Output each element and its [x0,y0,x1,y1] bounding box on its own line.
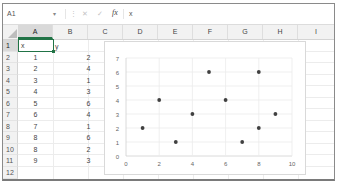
column-header-h[interactable]: H [263,25,298,39]
column-header-a[interactable]: A [18,25,53,39]
data-point [141,126,145,130]
cell-a10[interactable]: 8 [18,144,53,155]
cell-a4[interactable]: 3 [18,75,53,86]
column-headers: A B C D E F G H I [3,25,334,40]
formula-input[interactable]: x [129,8,133,20]
divider [65,9,66,19]
data-point [191,112,195,116]
column-header-f[interactable]: F [193,25,228,39]
cell-a5[interactable]: 4 [18,86,53,98]
cell-b7[interactable]: 4 [71,109,106,121]
cell-b9[interactable]: 6 [71,132,106,144]
x-tick-label: 8 [257,161,261,167]
cell-a8[interactable]: 7 [18,121,53,132]
row-header-10[interactable]: 10 [3,144,18,155]
data-point [157,98,161,102]
cell-b10[interactable]: 2 [71,144,106,155]
divider [123,9,124,19]
insert-function-icon[interactable]: fx [112,7,118,19]
x-tick-label: 0 [124,161,128,167]
active-cell-a1[interactable]: x [18,39,54,52]
scatter-chart[interactable]: 012345670246810 [104,41,306,175]
row-header-12[interactable]: 12 [3,167,18,179]
gridline [53,40,54,179]
y-tick-label: 4 [116,98,120,104]
row-header-7[interactable]: 7 [3,109,18,121]
spreadsheet-window: A1 ▾ ⋮ ✕ ✓ fx x A B C D E F G H I 1 2 3 … [2,3,335,181]
cell-b8[interactable]: 1 [71,121,106,132]
cancel-icon[interactable]: ✕ [82,8,88,20]
data-point [240,140,244,144]
y-tick-label: 7 [116,56,120,62]
cell-a1: x [21,41,25,51]
row-header-5[interactable]: 5 [3,86,18,98]
data-point [174,140,178,144]
row-header-2[interactable]: 2 [3,52,18,63]
select-all-icon [8,29,17,38]
row-header-6[interactable]: 6 [3,98,18,109]
y-tick-label: 5 [116,84,120,90]
data-point [224,98,228,102]
name-box-dropdown-icon[interactable]: ▾ [53,8,56,20]
x-tick-label: 4 [191,161,195,167]
data-point [207,70,211,74]
column-header-c[interactable]: C [88,25,123,39]
row-header-1[interactable]: 1 [3,40,18,52]
cell-a2[interactable]: 1 [18,52,53,63]
cell-b1[interactable]: y [55,41,59,52]
more-options-icon[interactable]: ⋮ [70,8,77,20]
data-point [274,112,278,116]
cell-a3[interactable]: 2 [18,63,53,75]
x-tick-label: 6 [224,161,228,167]
name-box[interactable]: A1 [7,8,57,20]
y-tick-label: 0 [116,154,120,160]
column-header-g[interactable]: G [228,25,263,39]
cell-b4[interactable]: 1 [71,75,106,86]
column-header-i[interactable]: I [298,25,334,39]
x-tick-label: 10 [289,161,296,167]
cell-b2[interactable]: 2 [71,52,106,63]
cell-a6[interactable]: 5 [18,98,53,109]
chart-plot-area: 012345670246810 [105,42,305,174]
row-header-9[interactable]: 9 [3,132,18,144]
y-tick-label: 6 [116,70,120,76]
cell-a9[interactable]: 8 [18,132,53,144]
y-tick-label: 1 [116,140,120,146]
cell-a11[interactable]: 9 [18,155,53,167]
y-tick-label: 2 [116,126,120,132]
cell-b3[interactable]: 4 [71,63,106,75]
x-tick-label: 2 [158,161,162,167]
column-header-b[interactable]: B [53,25,88,39]
column-header-e[interactable]: E [158,25,193,39]
cell-b11[interactable]: 3 [71,155,106,167]
cell-b5[interactable]: 3 [71,86,106,98]
row-header-4[interactable]: 4 [3,75,18,86]
formula-bar: A1 ▾ ⋮ ✕ ✓ fx x [3,4,334,25]
data-point [257,126,261,130]
row-header-3[interactable]: 3 [3,63,18,75]
cell-a7[interactable]: 6 [18,109,53,121]
row-header-8[interactable]: 8 [3,121,18,132]
enter-icon[interactable]: ✓ [97,8,103,20]
row-header-11[interactable]: 11 [3,155,18,167]
select-all-button[interactable] [3,25,19,39]
y-tick-label: 3 [116,112,120,118]
column-header-d[interactable]: D [123,25,158,39]
cell-b6[interactable]: 6 [71,98,106,109]
data-point [257,70,261,74]
